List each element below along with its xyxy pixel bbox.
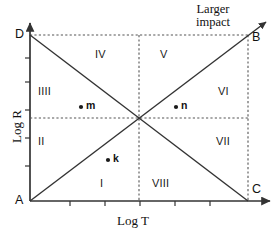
x-axis-label: Log T bbox=[117, 214, 149, 228]
y-axis-label: Log R bbox=[10, 110, 24, 143]
point-k-marker bbox=[106, 158, 110, 162]
point-label-m: m bbox=[86, 100, 95, 111]
region-label-iv: IV bbox=[95, 49, 106, 61]
region-label-vi: VI bbox=[218, 86, 229, 98]
larger-impact-annotation: Larger impact bbox=[196, 3, 230, 29]
figure-container: D A B C I II IIII IV V VI VII VIII m n k… bbox=[0, 0, 280, 241]
corner-label-a: A bbox=[15, 194, 23, 207]
point-m-marker bbox=[79, 105, 83, 109]
region-label-i: I bbox=[100, 178, 103, 190]
region-label-ii: II bbox=[38, 136, 45, 148]
region-label-iii: IIII bbox=[38, 86, 51, 98]
diagonal-ascending-ab bbox=[30, 22, 266, 201]
region-label-vii: VII bbox=[216, 136, 230, 148]
point-n-marker bbox=[174, 105, 178, 109]
corner-label-b: B bbox=[252, 31, 260, 44]
diagram-canvas bbox=[0, 0, 280, 241]
region-label-viii: VIII bbox=[152, 178, 169, 190]
point-label-k: k bbox=[113, 153, 119, 164]
point-label-n: n bbox=[181, 100, 187, 111]
larger-impact-line2: impact bbox=[196, 16, 230, 29]
corner-label-d: D bbox=[15, 28, 24, 41]
region-label-v: V bbox=[160, 49, 168, 61]
corner-label-c: C bbox=[252, 183, 261, 196]
